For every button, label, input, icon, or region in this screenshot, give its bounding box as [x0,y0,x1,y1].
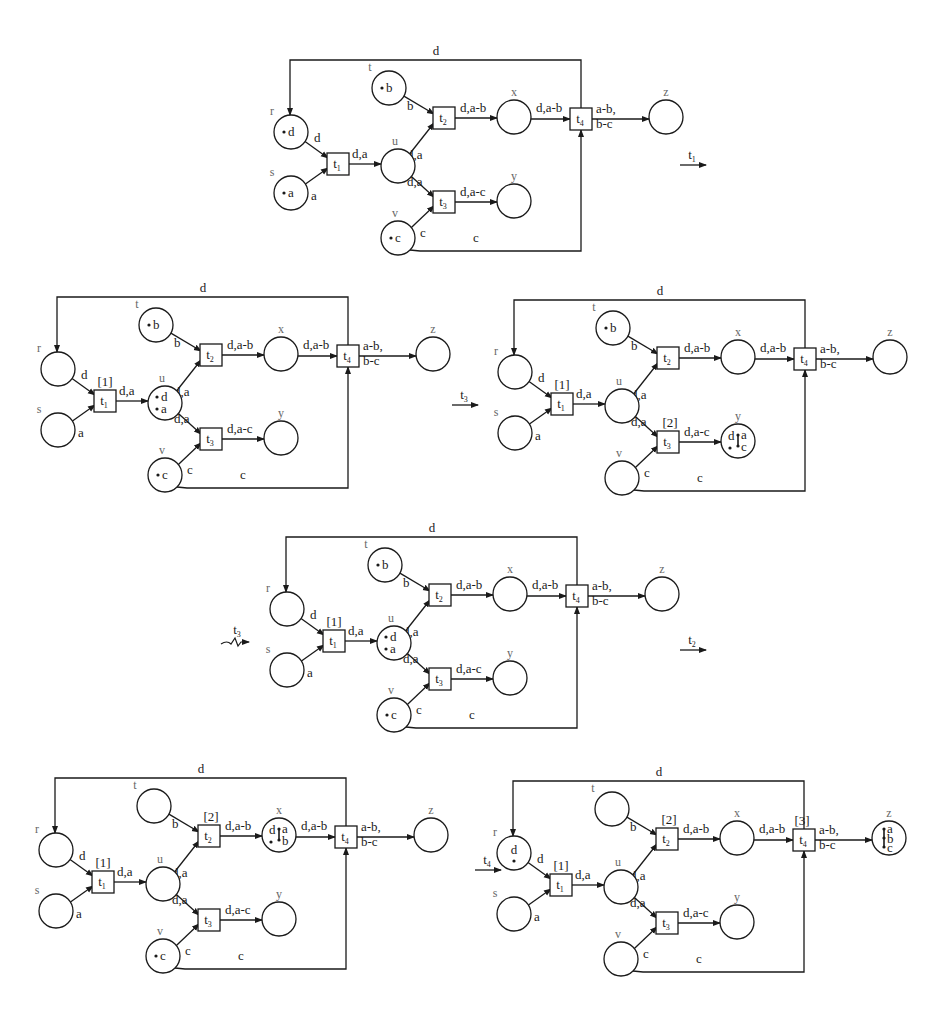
firing-step-arrow: t2 [680,632,706,650]
firing-counter-t1: [1] [554,377,569,392]
arc-label-r-t1: d [81,367,88,382]
arc-label-v-t3: c [187,462,193,477]
place-x [721,340,755,374]
arc-label-t3-y: d,a-c [225,902,251,917]
arc-s-t1 [305,168,328,184]
arc-label-s-t1: a [535,428,541,443]
petri-net-marking-m0: dcdad,abd,ad,acd,a-bd,a-cd,a-ba-b,b-crst… [270,43,683,255]
place-y [720,905,754,939]
place-z [645,577,679,611]
token-label: b [610,320,617,335]
firing-step-label: t3 [233,622,241,639]
arc-label-t2-x: d,a-b [456,577,482,592]
arc-label-t4-z: a-b, [363,338,383,353]
arc-label-t4-r: d [433,43,440,58]
token-label: a [161,401,167,416]
petri-net-marking-m2: dcdad,abd,ad,acd,a-bd,a-cd,a-ba-b,b-crst… [494,283,907,495]
firing-counter-t1: [1] [326,614,341,629]
place-t [595,792,629,826]
place-label-v: v [615,927,621,941]
arc-label-t2-x: d,a-b [227,337,253,352]
arc-label-t4-z-2: b-c [596,116,613,131]
place-r [498,355,532,389]
arc-label-s-t1: a [307,665,313,680]
place-label-y: y [734,890,740,904]
place-label-x: x [278,322,284,336]
firing-counter-t1: [1] [95,855,110,870]
arc-label-s-t1: a [311,188,317,203]
arc-label-x-t4: d,a-b [301,818,327,833]
place-x [497,100,531,134]
place-label-t: t [364,537,368,551]
place-label-s: s [37,402,42,416]
arc-label-v-t3: c [416,702,422,717]
arc-label-t4-z: a-b, [592,578,612,593]
place-v [605,461,639,495]
place-label-v: v [157,924,163,938]
place-label-z: z [887,325,892,339]
place-z [414,818,448,852]
place-label-u: u [159,371,165,385]
arc-label-v-t3: c [643,946,649,961]
arc-s-t1 [70,886,93,902]
arc-label-t4-r: d [656,764,663,779]
place-label-t: t [591,781,595,795]
arc-label-r-t1: d [314,130,321,145]
arc-label-t4-r: d [657,283,664,298]
place-label-s: s [493,886,498,900]
place-label-r: r [493,825,497,839]
arc-label-t-t2: b [174,335,181,350]
token-label: a [288,185,294,200]
arc-s-t1 [528,889,551,905]
arc-label-v-t3: c [185,943,191,958]
place-s [498,416,532,450]
arc-label-r-t1: d [538,370,545,385]
arc-label-x-t4: d,a-b [760,340,786,355]
firing-step-arrow: t3 [221,622,249,646]
place-s [39,894,73,928]
arc-label-s-t1: a [534,909,540,924]
arc-label-x-t4: d,a-b [759,821,785,836]
arc-label-t-t2: b [630,819,637,834]
place-r [41,352,75,386]
place-y [262,902,296,936]
place-label-t: t [368,60,372,74]
place-label-s: s [35,883,40,897]
place-label-v: v [159,443,165,457]
arc-label-v-t4: c [697,470,703,485]
place-x [264,337,298,371]
arc-label-v-t4: c [696,951,702,966]
firing-step-label: t3 [460,387,468,404]
place-label-u: u [615,855,621,869]
place-label-t: t [135,297,139,311]
place-u [146,867,180,901]
arc-label-t4-r: d [200,280,207,295]
place-label-x: x [734,806,740,820]
token-label: d [511,842,518,857]
arc-label-t3-y: d,a-c [456,661,482,676]
petri-net-marking-m5: dcdad,abd,ad,acd,a-bd,a-cd,a-ba-b,b-crst… [493,764,906,976]
petri-net-marking-m3: dcdad,abd,ad,acd,a-bd,a-cd,a-ba-b,b-crst… [266,520,679,732]
token-label: c [162,467,168,482]
place-s [497,897,531,931]
place-label-y: y [511,169,517,183]
firing-counter-t3: [2] [662,415,677,430]
token-label: d [288,124,295,139]
arc-s-t1 [301,645,324,661]
arc-label-t-t2: b [407,98,414,113]
place-label-z: z [663,85,668,99]
place-label-v: v [388,683,394,697]
arc-label-t4-z-2: b-c [592,593,609,608]
arc-label-t4-z: a-b, [820,341,840,356]
arc-label-t1-u: d,a [352,146,368,161]
place-label-x: x [735,325,741,339]
place-label-u: u [616,374,622,388]
token-label: b [282,833,289,848]
place-x [493,577,527,611]
arc-label-s-t1: a [76,906,82,921]
token-label: b [382,557,389,572]
place-label-t: t [592,300,596,314]
arc-label-x-t4: d,a-b [303,337,329,352]
token-label: b [153,317,160,332]
place-label-z: z [428,803,433,817]
